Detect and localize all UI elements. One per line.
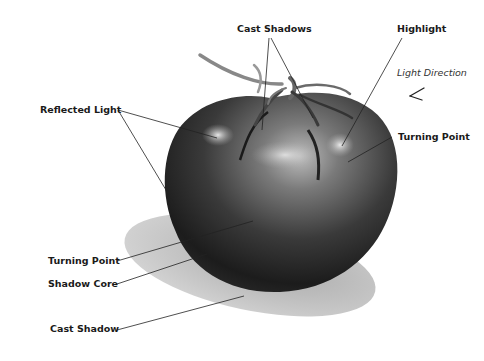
light-direction-arrow-icon <box>410 88 424 100</box>
highlight-spot <box>326 133 354 157</box>
label-light-direction: Light Direction <box>397 67 467 78</box>
tomato-shading-diagram: Cast Shadows Highlight Light Direction R… <box>0 0 484 361</box>
label-cast-shadows: Cast Shadows <box>237 23 312 34</box>
label-highlight: Highlight <box>397 23 447 34</box>
leader-cast-shadow <box>117 296 244 330</box>
label-turning-point-right: Turning Point <box>398 131 470 142</box>
top-lobe-highlight <box>251 141 319 169</box>
label-shadow-core: Shadow Core <box>48 278 118 289</box>
tomato-body <box>165 93 398 292</box>
leader-reflected-light-b <box>118 110 175 205</box>
label-cast-shadow: Cast Shadow <box>50 323 119 334</box>
label-reflected-light: Reflected Light <box>40 104 122 115</box>
illustration: Cast Shadows Highlight Light Direction R… <box>0 0 484 361</box>
label-turning-point-left: Turning Point <box>48 255 120 266</box>
